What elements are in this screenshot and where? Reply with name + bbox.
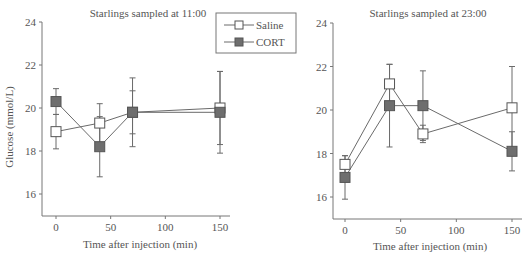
- x-tick-label: 150: [212, 221, 229, 233]
- figure: Starlings sampled at 11:0016182022240501…: [0, 0, 530, 261]
- y-tick-label: 20: [316, 104, 328, 116]
- open-square-marker: [385, 79, 395, 89]
- y-tick-label: 16: [25, 188, 37, 200]
- open-square-marker: [507, 103, 517, 113]
- y-tick-label: 24: [25, 16, 37, 28]
- filled-square-marker: [418, 101, 428, 111]
- open-square-marker: [340, 159, 350, 169]
- legend-label-saline: Saline: [256, 19, 284, 31]
- x-tick-label: 50: [105, 221, 117, 233]
- filled-square-marker: [128, 107, 138, 117]
- filled-square-marker: [385, 101, 395, 111]
- legend-open-square-icon: [235, 21, 243, 29]
- x-axis-label: Time after injection (min): [373, 240, 487, 253]
- open-square-marker: [51, 127, 61, 137]
- panel-left-chart: Starlings sampled at 11:0016182022240501…: [3, 7, 230, 251]
- legend: SalineCORT: [216, 13, 296, 53]
- x-axis-label: Time after injection (min): [83, 238, 197, 251]
- filled-square-marker: [51, 97, 61, 107]
- x-tick-label: 50: [395, 224, 407, 236]
- series-line-cort: [345, 106, 512, 178]
- y-tick-label: 22: [316, 61, 327, 73]
- filled-square-marker: [340, 172, 350, 182]
- filled-square-marker: [215, 107, 225, 117]
- x-tick-label: 100: [157, 221, 174, 233]
- x-tick-label: 0: [342, 224, 348, 236]
- series-line-saline: [345, 84, 512, 164]
- x-tick-label: 150: [504, 224, 521, 236]
- chart-title: Starlings sampled at 23:00: [369, 7, 487, 19]
- y-tick-label: 20: [25, 102, 37, 114]
- y-tick-label: 24: [316, 17, 328, 29]
- y-tick-label: 22: [25, 59, 36, 71]
- filled-square-marker: [95, 142, 105, 152]
- chart-title: Starlings sampled at 11:00: [90, 7, 207, 19]
- legend-filled-square-icon: [235, 38, 243, 46]
- y-tick-label: 16: [316, 191, 328, 203]
- x-tick-label: 100: [448, 224, 465, 236]
- legend-label-cort: CORT: [256, 36, 285, 48]
- x-tick-label: 0: [53, 221, 59, 233]
- open-square-marker: [418, 129, 428, 139]
- y-tick-label: 18: [25, 145, 37, 157]
- y-axis-label: Glucose (mmol/L): [3, 86, 16, 168]
- panel-right-chart: Starlings sampled at 23:0016182022240501…: [316, 7, 522, 253]
- open-square-marker: [95, 118, 105, 128]
- y-tick-label: 18: [316, 148, 328, 160]
- filled-square-marker: [507, 146, 517, 156]
